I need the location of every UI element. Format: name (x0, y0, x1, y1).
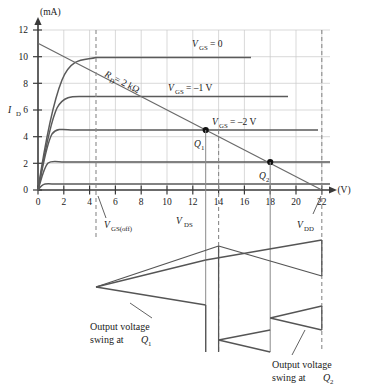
figure-svg: 0 2 4 6 8 10 12 0 2 4 6 8 10 12 14 16 18… (0, 0, 365, 386)
x-axis-quantity-main: V (176, 216, 183, 226)
y-axis-quantity-label: I D (7, 105, 21, 117)
x-tick-label: 4 (87, 197, 92, 207)
y-axis-quantity-main: I (7, 105, 12, 115)
q-point-label-main: Q (259, 171, 266, 181)
curve-label-main: V (212, 117, 219, 127)
drain-curves (38, 58, 330, 191)
curve-label-sub: GS (219, 122, 228, 129)
x-tick-label: 0 (36, 197, 41, 207)
caption-output-swing-q2: Output voltage swing at Q 2 (272, 359, 334, 385)
caption-line-2-sub: 1 (148, 340, 151, 347)
curve-label-rest: = –1 V (186, 83, 212, 93)
curve-label-vgs-minus1: V GS = –1 V (168, 83, 212, 95)
marker-label-main: V (104, 220, 111, 230)
caption-output-swing-q1: Output voltage swing at Q 1 (90, 321, 151, 347)
marker-label-sub: DD (304, 225, 314, 232)
y-tick-label: 6 (23, 105, 28, 115)
curve-vgs-minus1 (38, 96, 288, 190)
x-tick-label: 20 (291, 197, 301, 207)
q-point-2-label: Q 2 (259, 171, 270, 183)
x-axis-arrow (329, 186, 337, 193)
y-tick-label: 8 (23, 79, 28, 89)
x-tick-label: 12 (188, 197, 198, 207)
q-point-label-sub: 2 (266, 176, 270, 183)
output-swing-waveform-q1 (96, 240, 322, 352)
vdd-label: V DD (297, 220, 314, 232)
x-axis-quantity-sub: DS (184, 221, 193, 228)
x-tick-label: 8 (139, 197, 144, 207)
caption-line-2-sub: 2 (330, 378, 334, 385)
x-tick-label: 10 (162, 197, 172, 207)
vgs-off-label: V GS(off) (104, 220, 132, 233)
q-point-label-main: Q (194, 139, 201, 149)
y-axis-quantity-sub: D (16, 110, 21, 117)
curve-label-rest: = –2 V (230, 117, 256, 127)
y-tick-label: 12 (19, 25, 29, 35)
curve-label-main: V (192, 39, 199, 49)
caption-line-1: Output voltage (90, 321, 150, 332)
caption-line-2-pre: swing at (90, 334, 124, 345)
curve-vgs-minus4 (38, 184, 330, 190)
x-tick-label: 16 (240, 197, 250, 207)
y-tick-label: 2 (23, 159, 28, 169)
y-tick-label: 10 (19, 52, 29, 62)
q-point-1-label: Q 1 (194, 139, 204, 151)
curve-label-main: V (168, 83, 175, 93)
load-line-label: R D = 2 kΩ (101, 68, 141, 96)
caption-1-leader (130, 303, 152, 318)
q-point-label-sub: 1 (201, 144, 204, 151)
marker-label-sub: GS(off) (111, 225, 132, 233)
y-axis-arrow (34, 17, 41, 25)
dc-load-line (38, 43, 322, 190)
x-tick-label: 2 (61, 197, 66, 207)
curve-label-sub: GS (175, 88, 184, 95)
jfet-characteristic-figure: 0 2 4 6 8 10 12 0 2 4 6 8 10 12 14 16 18… (0, 0, 365, 386)
vgs-off-leader (98, 196, 106, 218)
x-tick-labels: 0 2 4 6 8 10 12 14 16 18 20 22 (36, 197, 327, 207)
axes (33, 17, 337, 195)
x-axis-unit-label: (V) (337, 185, 350, 196)
caption-2-leader (292, 330, 305, 355)
curve-vgs-minus3 (38, 161, 330, 190)
load-line-label-rest: = 2 kΩ (113, 74, 141, 95)
x-tick-label: 6 (113, 197, 118, 207)
x-axis-quantity-label: V DS (176, 216, 193, 228)
curve-label-sub: GS (199, 44, 208, 51)
y-tick-label: 4 (23, 132, 28, 142)
y-axis-unit-label: (mA) (40, 7, 61, 18)
curve-label-rest: = 0 (210, 39, 223, 49)
y-tick-label: 0 (23, 185, 28, 195)
grid-lines (38, 30, 330, 190)
curve-label-vgs-0: V GS = 0 (192, 39, 223, 51)
caption-line-2-pre: swing at (272, 372, 306, 383)
marker-label-main: V (297, 220, 304, 230)
caption-line-1: Output voltage (272, 359, 332, 370)
curve-vgs-minus2 (38, 129, 318, 190)
